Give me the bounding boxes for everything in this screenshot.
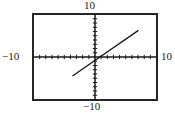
- axis-label-y-min: −10: [83, 101, 100, 112]
- plot-frame: [32, 13, 158, 101]
- axis-label-x-min: −10: [2, 51, 19, 62]
- graph-figure: 10 −10 10 −10: [0, 0, 175, 114]
- axis-label-y-max: 10: [84, 0, 95, 11]
- axis-label-x-max: 10: [161, 51, 172, 62]
